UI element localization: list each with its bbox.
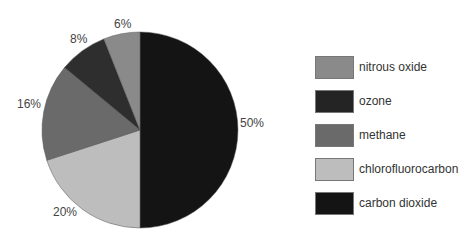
pct-label-chlorofluorocarbon: 20%: [53, 205, 77, 219]
legend-swatch: [315, 56, 354, 79]
legend-label: methane: [359, 128, 406, 142]
legend-item-nitrous-oxide: nitrous oxide: [315, 50, 458, 84]
pct-label-methane: 16%: [17, 97, 41, 111]
pct-label-ozone: 8%: [70, 32, 87, 46]
legend-item-carbon-dioxide: carbon dioxide: [315, 186, 458, 220]
legend: nitrous oxide ozone methane chlorofluoro…: [315, 50, 458, 220]
legend-label: ozone: [359, 94, 392, 108]
legend-swatch: [315, 90, 354, 113]
legend-swatch: [315, 124, 354, 147]
legend-item-chlorofluorocarbon: chlorofluorocarbon: [315, 152, 458, 186]
legend-label: nitrous oxide: [359, 60, 427, 74]
legend-swatch: [315, 192, 354, 215]
pct-label-carbon-dioxide: 50%: [240, 116, 264, 130]
legend-item-methane: methane: [315, 118, 458, 152]
legend-label: carbon dioxide: [359, 196, 437, 210]
legend-label: chlorofluorocarbon: [359, 162, 458, 176]
pie-slice-carbon-dioxide: [140, 32, 238, 228]
pct-label-nitrous-oxide: 6%: [114, 17, 131, 31]
legend-swatch: [315, 158, 354, 181]
legend-item-ozone: ozone: [315, 84, 458, 118]
